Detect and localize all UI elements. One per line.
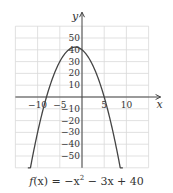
caption-tail: − 3x + 40 xyxy=(84,175,144,188)
y-tick-label: −20 xyxy=(61,116,80,126)
y-tick-label: −40 xyxy=(61,139,80,149)
function-caption: f(x) = −x2 − 3x + 40 xyxy=(0,174,173,188)
caption-rest: = −x xyxy=(48,175,80,188)
x-tick-label: 10 xyxy=(121,100,133,110)
y-tick-label: 20 xyxy=(69,68,81,78)
y-tick-label: −10 xyxy=(61,104,80,114)
y-axis-label: y xyxy=(71,10,79,23)
y-tick-label: 40 xyxy=(69,45,81,55)
y-tick-label: −30 xyxy=(61,127,80,137)
y-tick-label: 30 xyxy=(69,57,81,67)
x-axis-label: x xyxy=(157,98,164,111)
caption-arg: (x) xyxy=(33,175,48,188)
y-tick-label: −50 xyxy=(61,151,80,161)
y-tick-label: 50 xyxy=(69,33,81,43)
parabola-chart: −10−55105040302010−10−20−30−40−50 x y xyxy=(0,0,173,193)
y-tick-label: 10 xyxy=(69,80,81,90)
